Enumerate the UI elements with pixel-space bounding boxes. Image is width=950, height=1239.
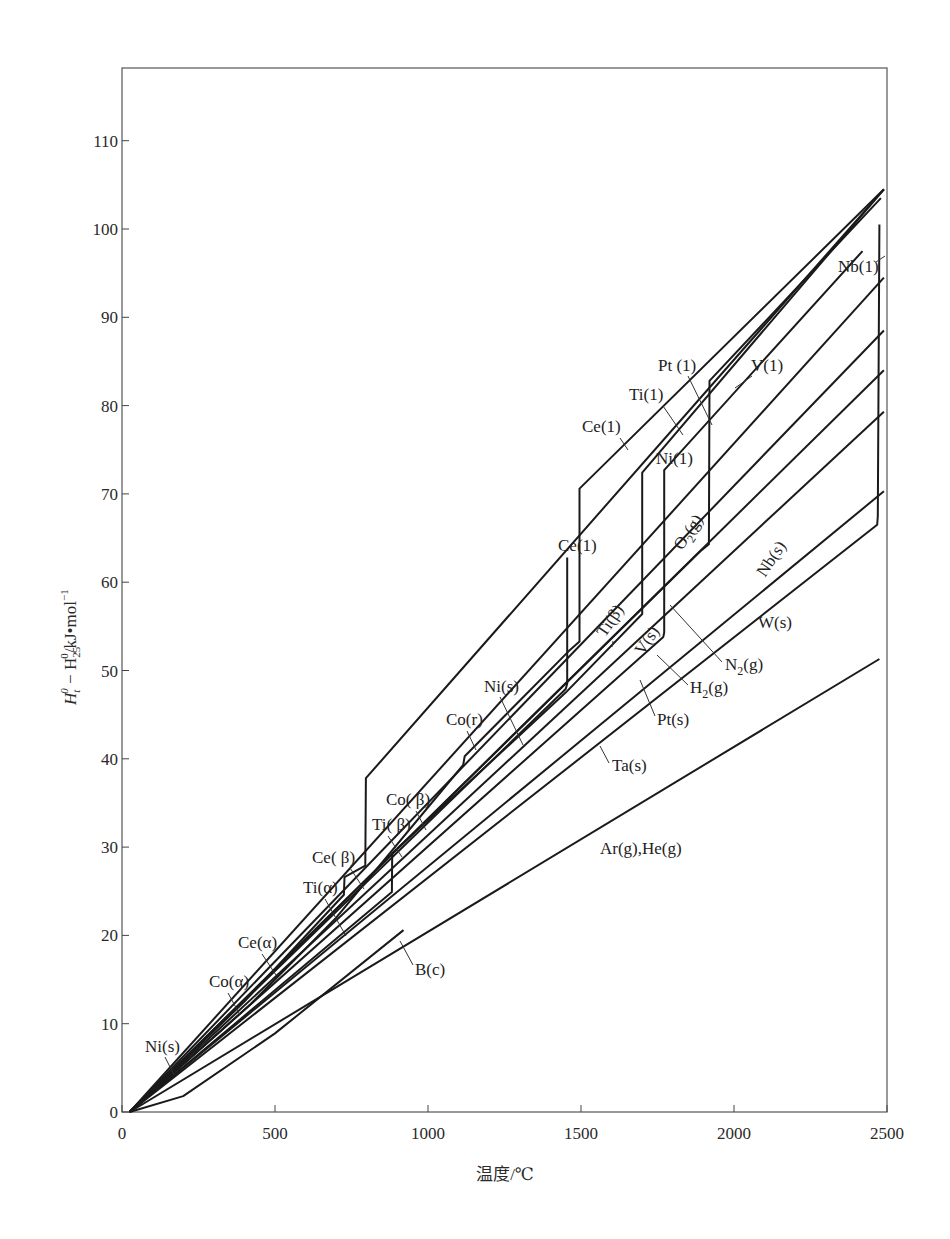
label-ta-solid: Ta(s)	[612, 756, 647, 775]
label-co-beta: Co( β)	[386, 790, 430, 809]
x-tick-label: 1000	[411, 1124, 445, 1143]
label-h2-gas: H2(g)	[690, 678, 728, 701]
curve-h2-g	[130, 370, 884, 1112]
y-tick-label: 10	[101, 1015, 118, 1034]
label-ni-liquid: Ni(1)	[656, 449, 693, 468]
label-w-solid: W(s)	[758, 613, 792, 632]
curve-w-s	[130, 491, 884, 1112]
y-tick-label: 80	[101, 397, 118, 416]
curve-ni	[130, 558, 568, 1113]
label-argon-helium-gas: Ar(g),He(g)	[600, 839, 682, 858]
x-tick-label: 1500	[564, 1124, 598, 1143]
y-tick-label: 0	[110, 1103, 119, 1122]
curve-labels: Nb(1) V(1) Pt (1) Ti(1) Ce(1) Ni(1) Ce(1…	[145, 256, 885, 1075]
x-tick-label: 500	[262, 1124, 288, 1143]
label-ti-beta: Ti( β)	[372, 815, 411, 834]
curve-ta-s	[130, 412, 884, 1112]
label-ni-solid-low: Ni(s)	[145, 1037, 180, 1056]
label-v-solid: V(s)	[631, 623, 664, 659]
label-ce-liquid: Ce(1)	[558, 536, 597, 555]
label-co-alpha: Co(α)	[209, 972, 249, 991]
label-boron-crystal: B(c)	[415, 960, 445, 979]
curve-ar-g-he-g	[130, 659, 880, 1112]
y-axis-label: Ht0 − H250/kJ•mol−1	[58, 589, 82, 706]
y-tick-label: 110	[93, 132, 118, 151]
label-pt-solid: Pt(s)	[657, 710, 689, 729]
y-tick-label: 90	[101, 308, 118, 327]
x-axis: 05001000150020002500	[118, 1105, 904, 1143]
label-co-gamma: Co(r)	[446, 710, 483, 729]
x-tick-label: 2000	[717, 1124, 751, 1143]
y-tick-label: 50	[101, 662, 118, 681]
y-axis: 0102030405060708090100110	[93, 132, 130, 1122]
label-ce-liquid-upper: Ce(1)	[582, 417, 621, 436]
y-tick-label: 20	[101, 926, 118, 945]
label-ce-beta: Ce( β)	[312, 848, 355, 867]
x-tick-label: 2500	[870, 1124, 904, 1143]
enthalpy-temperature-chart: 0102030405060708090100110 05001000150020…	[0, 0, 950, 1239]
label-nb-liquid: Nb(1)	[838, 257, 879, 276]
plot-frame	[122, 68, 887, 1112]
y-tick-label: 100	[93, 220, 119, 239]
x-tick-label: 0	[118, 1124, 127, 1143]
x-axis-label: 温度/℃	[476, 1165, 534, 1184]
y-tick-label: 60	[101, 573, 118, 592]
label-n2-gas: N2(g)	[725, 655, 763, 678]
y-tick-label: 70	[101, 485, 118, 504]
label-ti-liquid: Ti(1)	[629, 385, 663, 404]
label-pt-liquid: Pt (1)	[658, 356, 696, 375]
curve-n2-g	[130, 331, 884, 1113]
label-ce-alpha: Ce(α)	[238, 933, 277, 952]
label-v-liquid: V(1)	[751, 356, 783, 375]
curve-b-c	[130, 930, 404, 1112]
y-tick-label: 30	[101, 838, 118, 857]
y-tick-label: 40	[101, 750, 118, 769]
label-ti-alpha: Ti(α)	[303, 878, 338, 897]
label-ni-solid-mid: Ni(s)	[484, 677, 519, 696]
